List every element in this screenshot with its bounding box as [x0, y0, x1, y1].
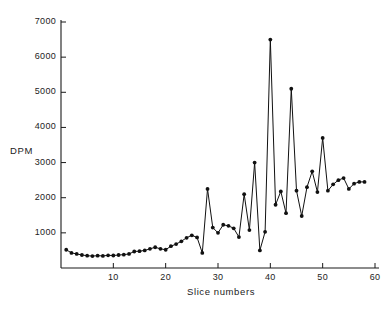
- data-point: [185, 236, 189, 240]
- data-point: [321, 136, 325, 140]
- data-point: [248, 228, 252, 232]
- data-point: [347, 187, 351, 191]
- data-point: [80, 253, 84, 257]
- data-point: [289, 87, 293, 91]
- data-point: [75, 252, 79, 256]
- data-point: [85, 254, 89, 258]
- y-axis-title: DPM: [10, 145, 33, 156]
- data-point: [274, 203, 278, 207]
- data-series-line: [66, 40, 364, 256]
- data-point: [195, 236, 199, 240]
- data-point: [326, 189, 330, 193]
- data-point: [143, 249, 147, 253]
- data-point-markers: [64, 38, 366, 258]
- data-point: [242, 192, 246, 196]
- x-tick-label: 20: [152, 272, 180, 282]
- data-point: [268, 38, 272, 42]
- y-tick-label: 3000: [14, 157, 56, 167]
- y-tick-label: 2000: [14, 192, 56, 202]
- data-point: [96, 254, 100, 258]
- data-point: [174, 242, 178, 246]
- data-point: [331, 182, 335, 186]
- data-point: [227, 224, 231, 228]
- data-point: [127, 252, 131, 256]
- data-point: [363, 180, 367, 184]
- data-point: [70, 251, 74, 255]
- data-point: [310, 169, 314, 173]
- line-chart-plot: [0, 0, 387, 309]
- data-point: [169, 244, 173, 248]
- x-tick-label: 60: [361, 272, 387, 282]
- x-axis-title: Slice numbers: [187, 286, 255, 297]
- data-point: [263, 230, 267, 234]
- data-point: [153, 245, 157, 249]
- chart-container: 1000200030004000500060007000 10203040506…: [0, 0, 387, 309]
- data-point: [300, 214, 304, 218]
- data-point: [352, 182, 356, 186]
- data-point: [221, 223, 225, 227]
- y-tick-label: 4000: [14, 121, 56, 131]
- x-tick-label: 30: [204, 272, 232, 282]
- data-point: [200, 251, 204, 255]
- data-point: [117, 253, 121, 257]
- data-point: [357, 180, 361, 184]
- data-point: [132, 250, 136, 254]
- data-point: [190, 233, 194, 237]
- x-axis-ticks: [113, 263, 375, 268]
- data-point: [258, 249, 262, 253]
- data-point: [316, 190, 320, 194]
- data-point: [237, 235, 241, 239]
- data-point: [159, 247, 163, 251]
- data-point: [138, 249, 142, 253]
- y-tick-label: 1000: [14, 227, 56, 237]
- data-point: [216, 231, 220, 235]
- data-point: [284, 211, 288, 215]
- y-tick-label: 7000: [14, 16, 56, 26]
- x-tick-label: 50: [309, 272, 337, 282]
- data-point: [211, 226, 215, 230]
- data-point: [122, 253, 126, 257]
- data-point: [164, 248, 168, 252]
- data-point: [336, 178, 340, 182]
- data-point: [111, 254, 115, 258]
- data-point: [179, 239, 183, 243]
- data-point: [64, 248, 68, 252]
- data-point: [91, 254, 95, 258]
- data-point: [206, 187, 210, 191]
- data-point: [253, 161, 257, 165]
- x-tick-label: 40: [256, 272, 284, 282]
- data-point: [106, 253, 110, 257]
- y-axis-ticks: [61, 22, 66, 233]
- data-point: [279, 189, 283, 193]
- data-point: [101, 254, 105, 258]
- data-point: [148, 247, 152, 251]
- y-tick-label: 6000: [14, 51, 56, 61]
- data-point: [305, 185, 309, 189]
- x-tick-label: 10: [99, 272, 127, 282]
- y-tick-label: 5000: [14, 86, 56, 96]
- data-point: [342, 176, 346, 180]
- data-point: [232, 226, 236, 230]
- data-point: [295, 189, 299, 193]
